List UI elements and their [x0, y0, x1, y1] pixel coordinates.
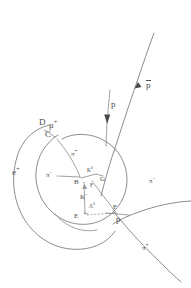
- label-vertex-g-text: G: [100, 175, 105, 183]
- label-vertex-d: D: [39, 118, 46, 127]
- label-pi-plus-bottom-charge: +: [146, 243, 149, 248]
- label-vertex-c-text: C: [45, 129, 51, 139]
- label-vertex-e-text: E: [74, 212, 78, 220]
- label-pi-plus-inner-charge: +: [75, 149, 78, 154]
- label-antiproton-text: p: [146, 80, 151, 90]
- label-pi-plus-inner: π+: [71, 151, 77, 158]
- label-proton-incoming-text: p: [111, 99, 116, 109]
- label-vertex-a-text: A: [82, 183, 87, 191]
- label-proton-incoming: p: [111, 100, 116, 109]
- label-vertex-f: F: [113, 204, 117, 211]
- track-canvas: [0, 0, 191, 288]
- label-e-plus-charge: +: [16, 165, 20, 172]
- label-pi-plus-bottom: π+: [142, 245, 148, 252]
- label-vertex-f-inner: F: [90, 183, 93, 189]
- label-e-plus: e+: [12, 168, 20, 177]
- label-k-zero: K0: [87, 168, 93, 174]
- track-pi-minus-right: [113, 201, 191, 224]
- label-k-minus-charge: −: [85, 192, 88, 197]
- label-vertex-f-text: F: [113, 203, 117, 211]
- label-pi-minus-right: π−: [149, 178, 155, 185]
- label-vertex-d-text: D: [39, 117, 46, 127]
- track-pi-minus-to-b: [57, 176, 80, 177]
- label-vertex-e: E: [74, 213, 78, 220]
- track-c-to-b-pi-plus: [57, 139, 80, 177]
- label-pi-minus-right-charge: −: [153, 176, 156, 181]
- label-proton-f-text: p: [116, 214, 121, 224]
- label-k-zero-charge: 0: [91, 165, 93, 170]
- arrow-down-icon: [104, 115, 110, 125]
- track-e-stub: [84, 213, 88, 214]
- label-vertex-f-inner-text: F: [90, 182, 93, 188]
- label-mu-plus-charge: +: [54, 118, 58, 125]
- label-vertex-g: G: [100, 176, 105, 183]
- label-vertex-b-text: B: [74, 178, 79, 186]
- label-lambda-zero: Λ0: [89, 204, 95, 210]
- track-e-plus-spiral: [14, 125, 115, 249]
- label-k-minus: K−: [80, 194, 88, 201]
- label-pi-minus-inner: π−: [46, 172, 52, 179]
- label-proton-f: p: [116, 215, 121, 224]
- label-vertex-a: A: [82, 184, 87, 191]
- bubble-chamber-diagram: e+ D μ+ C π+ π− B K0 A F G K− Λ0 E F: [0, 0, 191, 288]
- label-lambda-zero-charge: 0: [93, 201, 95, 206]
- label-antiproton: p: [146, 80, 151, 90]
- label-vertex-c: C: [45, 130, 51, 139]
- label-pi-minus-inner-charge: −: [50, 170, 53, 175]
- label-vertex-b: B: [74, 179, 79, 186]
